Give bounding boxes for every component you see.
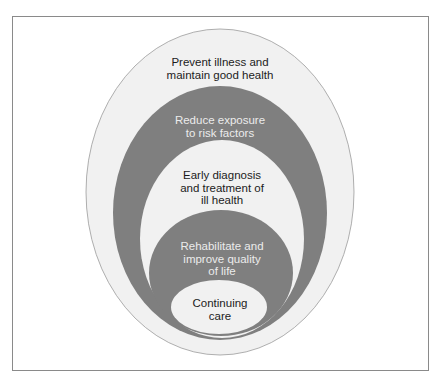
- label-reduce-exposure: Reduce exposure to risk factors: [150, 114, 290, 139]
- label-rehabilitate: Rehabilitate and improve quality of life: [165, 240, 279, 278]
- label-continuing-care: Continuing care: [180, 297, 260, 322]
- label-early-diagnosis: Early diagnosis and treatment of ill hea…: [160, 169, 284, 207]
- label-prevent-illness: Prevent illness and maintain good health: [140, 56, 300, 81]
